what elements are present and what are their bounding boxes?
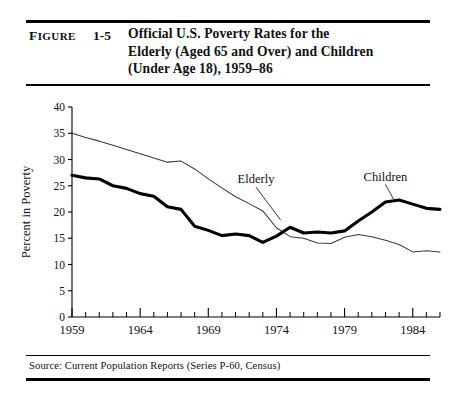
x-tick-label: 1984 [400,323,426,337]
series-label-children: Children [364,170,408,184]
leader-line-children [385,185,393,200]
series-label-elderly: Elderly [238,172,276,186]
y-tick-label: 35 [54,127,66,139]
figure-number: 1-5 [93,28,111,44]
x-axis: 195919641969197419791984 [60,308,441,337]
header-rule-top [26,20,430,23]
y-tick-label: 0 [59,311,65,323]
y-tick-label: 10 [54,259,66,271]
y-tick-label: 20 [54,206,66,218]
source-rule-top [26,355,430,356]
figure-label-initial: F [29,28,38,43]
chart-svg: 0510152025303540 19591964196919741979198… [0,92,454,342]
y-tick-label: 15 [54,232,66,244]
footer-rule [26,378,430,381]
x-tick-label: 1964 [128,323,154,337]
figure-label-rest: IGURE [38,30,76,42]
y-tick-label: 25 [54,180,66,192]
y-tick-label: 40 [54,101,66,113]
y-tick-label: 5 [59,285,65,297]
figure-title-line-3: (Under Age 18), 1959–86 [128,60,428,78]
x-tick-label: 1959 [60,323,85,337]
y-tick-label: 30 [54,154,66,166]
y-axis: 0510152025303540 [54,101,73,323]
x-tick-label: 1974 [264,323,290,337]
figure-page: FIGURE 1-5 Official U.S. Poverty Rates f… [0,0,454,397]
poverty-rates-line-chart: 0510152025303540 19591964196919741979198… [0,92,454,342]
y-axis-title: Percent in Poverty [19,165,33,258]
figure-label: FIGURE [29,28,76,44]
source-note: Source: Current Population Reports (Seri… [29,360,280,371]
x-tick-label: 1969 [196,323,221,337]
figure-title-line-1: Official U.S. Poverty Rates for the [128,25,428,43]
header-rule-bottom [26,84,430,86]
series-group [72,133,440,252]
annotation-group: ElderlyChildren [238,170,408,220]
x-tick-label: 1979 [332,323,357,337]
figure-title-line-2: Elderly (Aged 65 and Over) and Children [128,43,428,61]
leader-line-elderly [256,187,281,220]
figure-title: Official U.S. Poverty Rates for the Elde… [128,25,428,78]
series-line-elderly [72,133,440,252]
